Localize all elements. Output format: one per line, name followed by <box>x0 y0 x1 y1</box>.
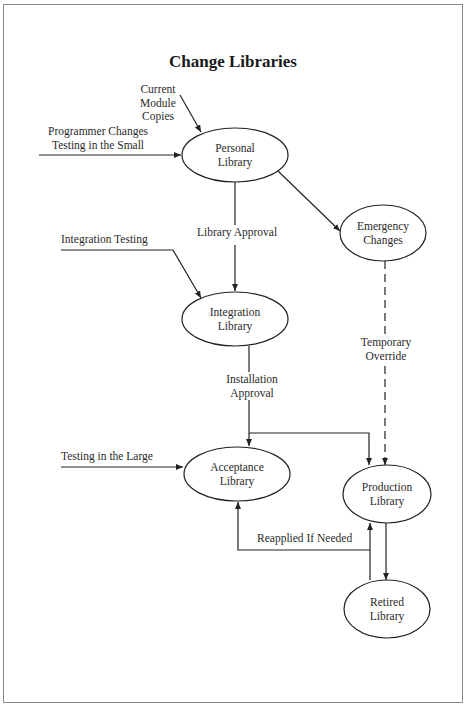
label-programmer-changes: Programmer Changes Testing in the Small <box>48 125 148 152</box>
label-line: Current <box>140 83 176 97</box>
label-installation-approval: Installation Approval <box>226 373 278 400</box>
label-line: Testing in the Small <box>48 139 148 153</box>
label-line: Library <box>370 609 404 623</box>
label-line: Library <box>210 474 264 488</box>
label-reapplied-if-needed: Reapplied If Needed <box>257 532 352 546</box>
label-emergency-changes: Emergency Changes <box>357 220 409 247</box>
edge-to-production <box>249 433 369 465</box>
label-current-module-copies: Current Module Copies <box>140 83 176 124</box>
label-line: Temporary <box>361 336 411 350</box>
diagram-title: Change Libraries <box>169 52 297 72</box>
label-production-library: Production Library <box>362 481 412 508</box>
label-personal-library: Personal Library <box>215 142 255 169</box>
label-line: Acceptance <box>210 461 264 475</box>
label-line: Library <box>215 155 255 169</box>
label-line: Production <box>362 481 412 495</box>
label-line: Emergency <box>357 220 409 234</box>
label-retired-library: Retired Library <box>370 596 404 623</box>
label-integration-testing: Integration Testing <box>61 233 148 247</box>
edge-integration-testing <box>61 250 201 298</box>
label-acceptance-library: Acceptance Library <box>210 461 264 488</box>
label-line: Library <box>210 319 260 333</box>
label-line: Changes <box>357 233 409 247</box>
edge-personal-to-emergency <box>278 171 340 231</box>
label-line: Copies <box>140 110 176 124</box>
label-testing-in-the-large: Testing in the Large <box>61 450 153 464</box>
label-line: Programmer Changes <box>48 125 148 139</box>
label-line: Approval <box>226 387 278 401</box>
label-integration-library: Integration Library <box>210 306 260 333</box>
label-line: Integration <box>210 306 260 320</box>
label-line: Personal <box>215 142 255 156</box>
label-line: Module <box>140 97 176 111</box>
label-line: Retired <box>370 596 404 610</box>
label-temporary-override: Temporary Override <box>361 336 411 363</box>
label-library-approval: Library Approval <box>197 226 277 240</box>
label-line: Override <box>361 350 411 364</box>
label-line: Library <box>362 494 412 508</box>
label-line: Installation <box>226 373 278 387</box>
edge-current-module <box>180 95 201 132</box>
